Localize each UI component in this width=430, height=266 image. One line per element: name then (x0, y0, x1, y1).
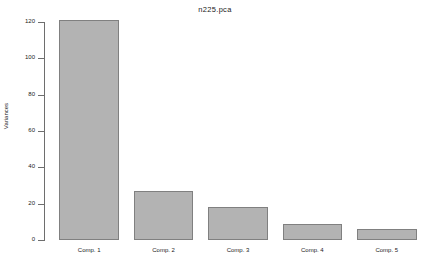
x-axis-label: Comp. 3 (208, 247, 268, 253)
y-tick-mark (38, 204, 44, 205)
bar (59, 20, 119, 240)
y-tick-mark (38, 167, 44, 168)
x-axis-label: Comp. 4 (283, 247, 343, 253)
bar (283, 224, 343, 240)
y-axis-line (44, 22, 45, 241)
y-tick-label: 0 (7, 236, 35, 242)
x-axis-label: Comp. 5 (357, 247, 417, 253)
x-axis-label: Comp. 2 (134, 247, 194, 253)
chart-title: n225.pca (0, 5, 430, 14)
y-tick-mark (38, 95, 44, 96)
y-tick-label: 20 (7, 200, 35, 206)
y-tick-mark (38, 131, 44, 132)
screeplot-figure: n225.pca Variances 020406080100120 Comp.… (0, 0, 430, 266)
x-axis-label: Comp. 1 (59, 247, 119, 253)
y-tick-mark (38, 58, 44, 59)
bar (134, 191, 194, 240)
y-tick-label: 60 (7, 127, 35, 133)
y-tick-mark (38, 240, 44, 241)
y-tick-label: 80 (7, 91, 35, 97)
y-tick-label: 40 (7, 163, 35, 169)
bar (357, 229, 417, 240)
y-tick-mark (38, 22, 44, 23)
y-tick-label: 100 (7, 54, 35, 60)
y-tick-label: 120 (7, 18, 35, 24)
bar (208, 207, 268, 240)
